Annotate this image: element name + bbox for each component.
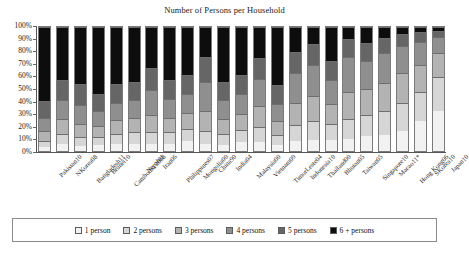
stacked-bar (307, 26, 320, 152)
bar-segment (164, 118, 175, 133)
bar-segment (93, 145, 104, 151)
bar-segment (200, 57, 211, 82)
stacked-bar (271, 26, 284, 152)
stacked-bar (325, 26, 338, 152)
bar-segment (75, 105, 86, 124)
stacked-bar (253, 26, 266, 152)
bar-segment (182, 94, 193, 113)
bar-segment (326, 124, 337, 140)
stacked-bar (163, 26, 176, 152)
bar-segment (397, 46, 408, 73)
bar-segment (254, 106, 265, 127)
y-axis-tick-label: 60% (18, 72, 32, 80)
bar-segment (343, 119, 354, 139)
bar-segment (308, 44, 319, 65)
bar-segment (182, 141, 193, 151)
bar-segment (200, 27, 211, 57)
bar-segment (111, 144, 122, 151)
bar-segment (200, 131, 211, 143)
bar-segment (326, 140, 337, 151)
bar-segment (254, 142, 265, 151)
bar-segment (326, 80, 337, 104)
x-axis-tick-label: India04 (233, 153, 252, 172)
bar-segment (379, 27, 390, 38)
legend-item: 6 + persons (330, 226, 375, 235)
bar-segment (182, 113, 193, 129)
legend-label: 2 persons (133, 226, 162, 235)
bar-segment (433, 37, 444, 53)
bar-segment (129, 100, 140, 117)
stacked-bar (432, 26, 445, 152)
legend-swatch-icon (123, 227, 130, 234)
bar-segment (93, 126, 104, 137)
bar-segment (93, 27, 104, 94)
bar-segment (397, 27, 408, 34)
bar-segment (200, 82, 211, 112)
bar-segment (236, 27, 247, 75)
stacked-bar (128, 26, 141, 152)
legend-label: 1 person (85, 226, 111, 235)
legend-item: 2 persons (123, 226, 162, 235)
bars-layer (37, 26, 446, 152)
bar-segment (164, 80, 175, 99)
bar-segment (218, 119, 229, 134)
y-axis-tick-label: 0% (22, 148, 32, 156)
bar-segment (290, 103, 301, 125)
stacked-bar (342, 26, 355, 152)
bar-segment (379, 83, 390, 112)
bar-segment (308, 121, 319, 140)
bar-segment (236, 75, 247, 94)
bar-segment (164, 144, 175, 151)
bar-segment (290, 27, 301, 52)
bar-segment (236, 130, 247, 142)
legend-label: 5 persons (288, 226, 317, 235)
bar-segment (146, 90, 157, 115)
bar-segment (146, 68, 157, 90)
bar-segment (129, 82, 140, 101)
bar-segment (272, 145, 283, 151)
bar-segment (379, 53, 390, 83)
stacked-bar (289, 26, 302, 152)
bar-segment (361, 27, 372, 43)
bar-segment (39, 27, 50, 101)
bar-segment (343, 92, 354, 119)
bar-segment (57, 27, 68, 80)
stacked-bar (110, 26, 123, 152)
stacked-bar (396, 26, 409, 152)
bar-segment (93, 94, 104, 111)
bar-segment (146, 132, 157, 143)
bar-segment (272, 85, 283, 104)
bar-segment (326, 104, 337, 124)
bar-segment (308, 27, 319, 44)
chart-legend: 1 person2 persons3 persons4 persons5 per… (12, 218, 437, 242)
bar-segment (75, 137, 86, 146)
stacked-bar (235, 26, 248, 152)
bar-segment (218, 82, 229, 101)
bar-segment (308, 96, 319, 121)
bar-segment (75, 84, 86, 105)
bar-segment (218, 145, 229, 151)
bar-segment (182, 75, 193, 94)
bar-segment (397, 131, 408, 151)
bar-segment (75, 124, 86, 138)
bar-segment (129, 27, 140, 82)
stacked-bar (74, 26, 87, 152)
bar-segment (146, 115, 157, 132)
y-axis-tick-label: 40% (18, 98, 32, 106)
stacked-bar (414, 26, 427, 152)
bar-segment (146, 144, 157, 151)
bar-segment (254, 27, 265, 58)
bar-segment (343, 57, 354, 92)
bar-segment (57, 100, 68, 119)
bar-segment (433, 53, 444, 77)
bar-segment (57, 134, 68, 144)
bar-segment (254, 79, 265, 106)
legend-swatch-icon (226, 227, 233, 234)
bar-segment (361, 89, 372, 115)
y-axis-tick-label: 90% (18, 35, 32, 43)
bar-segment (39, 101, 50, 117)
bar-segment (129, 118, 140, 133)
bar-segment (93, 111, 104, 126)
bar-segment (397, 103, 408, 132)
